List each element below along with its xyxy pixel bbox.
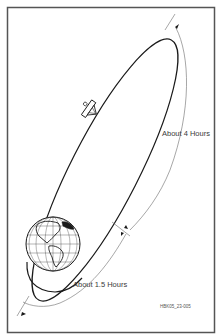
perigee-duration-label: About 1.5 Hours (73, 280, 127, 289)
earth-icon (26, 217, 80, 271)
orbit-diagram: About 4 Hours About 1.5 Hours HBK05_23-0… (0, 0, 221, 335)
satellite-icon (77, 97, 101, 121)
orbit-ellipse (8, 24, 201, 315)
apogee-arc-arrow (130, 14, 187, 230)
divider-tick (112, 222, 130, 236)
figure-code-label: HBK05_23-005 (160, 304, 191, 309)
arrowhead-icon (21, 312, 26, 316)
arrowhead-icon (175, 24, 179, 29)
apogee-duration-label: About 4 Hours (162, 129, 210, 138)
